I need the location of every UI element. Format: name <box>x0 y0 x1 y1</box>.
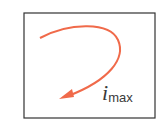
arrowhead-icon <box>59 89 74 99</box>
diagram-canvas <box>0 0 163 125</box>
current-max-label: imax <box>102 80 133 106</box>
frame-box <box>24 13 155 118</box>
label-subscript: max <box>108 90 133 105</box>
